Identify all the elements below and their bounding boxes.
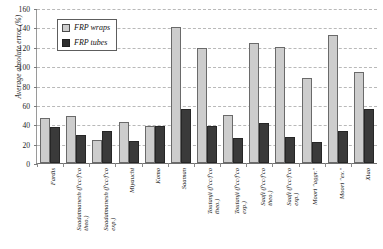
x-label-slot: Toutanji (f'cc/f'coexp.) xyxy=(220,168,246,249)
x-axis-label: Xiao xyxy=(364,168,371,180)
bar-frp-wraps xyxy=(119,122,129,163)
x-axis-label-line1: Moori "ex." xyxy=(338,168,345,199)
bar-frp-tubes xyxy=(364,109,374,163)
bar-frp-tubes xyxy=(338,131,348,163)
x-tick-mark xyxy=(89,163,90,167)
bar-group xyxy=(272,9,298,163)
y-tick-label: 60 xyxy=(6,102,30,111)
bar-group xyxy=(194,9,220,163)
bar-frp-wraps xyxy=(249,43,259,163)
y-tick-label: 160 xyxy=(6,5,30,14)
x-label-slot: Moori "ex." xyxy=(325,168,351,249)
x-axis-label-line1: Komo xyxy=(154,168,161,184)
x-tick-mark xyxy=(63,163,64,167)
bar-frp-wraps xyxy=(223,115,233,163)
y-tick-label: 40 xyxy=(6,121,30,130)
bar-group xyxy=(142,9,168,163)
bar-frp-tubes xyxy=(312,142,322,163)
x-tick-mark xyxy=(246,163,247,167)
bar-frp-tubes xyxy=(285,137,295,163)
x-axis-label-line1: Xiao xyxy=(364,168,371,180)
x-axis-label: Miyauchi xyxy=(128,168,135,193)
y-tick-label: 100 xyxy=(6,63,30,72)
y-tick-label: 120 xyxy=(6,44,30,53)
y-tick-label: 20 xyxy=(6,141,30,150)
x-label-slot: Saadatmanesh (f'cc/f'cotheo.) xyxy=(62,168,88,249)
legend-item-wraps: FRP wraps xyxy=(62,23,110,32)
bar-frp-wraps xyxy=(197,48,207,163)
x-axis-label: Fardis xyxy=(49,168,56,185)
x-label-slot: Xiao xyxy=(351,168,377,249)
x-label-slot: Saaman xyxy=(167,168,193,249)
x-axis-label-line1: Moori "aggr." xyxy=(311,168,318,205)
x-tick-mark xyxy=(351,163,352,167)
legend-label-tubes: FRP tubes xyxy=(74,38,107,47)
bar-frp-wraps xyxy=(328,35,338,163)
bar-frp-tubes xyxy=(76,135,86,163)
x-axis-label-line1: Fardis xyxy=(49,168,56,185)
legend-item-tubes: FRP tubes xyxy=(62,38,110,47)
x-tick-mark xyxy=(194,163,195,167)
x-label-slot: Fardis xyxy=(36,168,62,249)
bar-frp-wraps xyxy=(145,126,155,163)
bar-frp-wraps xyxy=(275,47,285,163)
x-tick-mark xyxy=(272,163,273,167)
bar-frp-tubes xyxy=(102,131,112,163)
legend: FRP wraps FRP tubes xyxy=(57,19,117,51)
x-label-slot: Komo xyxy=(141,168,167,249)
x-tick-mark xyxy=(37,163,38,167)
bar-group xyxy=(246,9,272,163)
bar-group xyxy=(351,9,377,163)
y-tick-label: 80 xyxy=(6,83,30,92)
x-label-slot: Moori "aggr." xyxy=(298,168,324,249)
bar-group xyxy=(325,9,351,163)
x-tick-mark xyxy=(220,163,221,167)
bar-frp-tubes xyxy=(181,109,191,163)
bar-frp-wraps xyxy=(66,116,76,163)
bar-group xyxy=(220,9,246,163)
x-tick-mark xyxy=(142,163,143,167)
bar-frp-tubes xyxy=(155,126,165,163)
x-axis-label-line1: Saadatmanesh (f'cc/f'co xyxy=(102,168,109,231)
x-label-slot: Toutanji (f'cc/f'cotheo.) xyxy=(193,168,219,249)
x-tick-mark xyxy=(115,163,116,167)
bar-group xyxy=(115,9,141,163)
x-axis-label-line1: Saafi (f'cc/f'co xyxy=(259,168,266,206)
x-label-slot: Miyauchi xyxy=(115,168,141,249)
x-label-slot: Saadatmanesh (f'cc/f'coexp.) xyxy=(88,168,114,249)
bar-frp-wraps xyxy=(171,27,181,163)
x-axis-label: Komo xyxy=(154,168,161,184)
bar-frp-wraps xyxy=(40,118,50,163)
x-label-slot: Saafi (f'cc/f'coexp.) xyxy=(272,168,298,249)
x-axis-label: Moori "aggr." xyxy=(311,168,318,205)
x-axis-tick-labels: FardisSaadatmanesh (f'cc/f'cotheo.)Saada… xyxy=(36,168,377,249)
x-axis-label-line1: Miyauchi xyxy=(128,168,135,193)
bar-frp-wraps xyxy=(92,140,102,163)
bar-frp-tubes xyxy=(259,123,269,163)
y-tick-label: 0 xyxy=(6,160,30,169)
bar-frp-tubes xyxy=(207,126,217,163)
bar-frp-wraps xyxy=(302,78,312,163)
x-tick-mark xyxy=(325,163,326,167)
bar-group xyxy=(168,9,194,163)
x-tick-mark xyxy=(299,163,300,167)
x-axis-label-line1: Saaman xyxy=(180,168,187,189)
bar-frp-tubes xyxy=(50,127,60,163)
legend-swatch-icon-tubes xyxy=(62,39,70,47)
y-tick-label: 140 xyxy=(6,24,30,33)
bar-frp-wraps xyxy=(354,72,364,163)
x-tick-mark xyxy=(168,163,169,167)
legend-label-wraps: FRP wraps xyxy=(74,23,110,32)
x-axis-label: Saaman xyxy=(180,168,187,189)
x-label-slot: Saafi (f'cc/f'cotheo.) xyxy=(246,168,272,249)
x-axis-label-line1: Toutanji (f'cc/f'co xyxy=(233,168,240,214)
x-axis-label: Moori "ex." xyxy=(338,168,345,199)
bar-frp-tubes xyxy=(233,138,243,163)
bar-group xyxy=(299,9,325,163)
legend-swatch-icon-wraps xyxy=(62,24,70,32)
bar-chart: Average absolute error (%) 0204060801001… xyxy=(0,0,383,249)
bar-frp-tubes xyxy=(129,141,139,163)
